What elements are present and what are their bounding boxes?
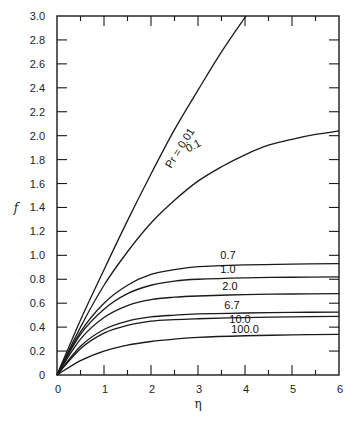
x-tick-label: 1 (102, 383, 108, 395)
y-tick-label: 2.6 (30, 58, 45, 70)
curves-layer (57, 16, 339, 375)
x-tick-label: 0 (55, 383, 61, 395)
x-tick-label: 6 (337, 383, 343, 395)
x-tick-label: 4 (243, 383, 249, 395)
y-tick-label: 1.8 (30, 154, 45, 166)
y-tick-label: 0 (39, 369, 45, 381)
x-tick-label: 3 (196, 383, 202, 395)
curve-1-0 (57, 277, 339, 375)
y-tick-label: 1.0 (30, 249, 45, 261)
y-tick-label: 0.6 (30, 297, 45, 309)
y-tick-label: 2.4 (30, 82, 45, 94)
y-tick-label: 2.8 (30, 34, 45, 46)
y-tick-label: 1.2 (30, 225, 45, 237)
y-tick-label: 2.0 (30, 130, 45, 142)
x-tick-label: 2 (149, 383, 155, 395)
y-tick-label: 1.6 (30, 178, 45, 190)
y-tick-label: 0.8 (30, 273, 45, 285)
curve-0-1 (57, 131, 339, 375)
curve-label-2-0: 2.0 (222, 280, 237, 292)
y-tick-label: 2.2 (30, 106, 45, 118)
x-tick-label: 5 (290, 383, 296, 395)
curve-label-100-0: 100.0 (231, 323, 259, 335)
y-tick-label: 3.0 (30, 10, 45, 22)
curve-label-6-7: 6.7 (224, 299, 239, 311)
y-axis-label: f (13, 201, 21, 215)
y-tick-label: 1.4 (30, 201, 45, 213)
chart: 00.20.40.60.81.01.21.41.61.82.02.22.42.6… (0, 0, 356, 425)
y-tick-label: 0.2 (30, 345, 45, 357)
x-axis-label: η (194, 397, 201, 411)
curve-label-1-0: 1.0 (220, 263, 235, 275)
curve-label-0-7: 0.7 (220, 249, 235, 261)
y-tick-label: 0.4 (30, 321, 45, 333)
labels-layer: Pr = 0.010.10.71.02.06.710.0100.0 (163, 126, 259, 335)
